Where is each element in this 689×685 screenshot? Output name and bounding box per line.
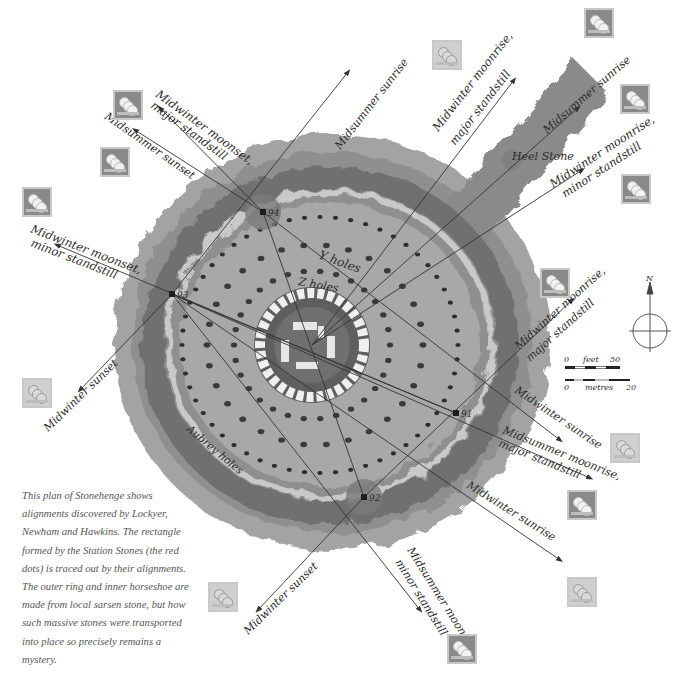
- horizon-icon: [571, 599, 593, 602]
- heel-stone-label: Heel Stone: [511, 150, 574, 163]
- horizon-icon: [212, 604, 234, 607]
- horizon-icon: [451, 656, 473, 659]
- station-stone-number: 91: [461, 409, 472, 419]
- scale-feet-unit: feet: [582, 355, 599, 364]
- sun-phase-icon: [208, 582, 238, 612]
- horizon-icon: [571, 512, 593, 515]
- moon-phase-icon: [567, 490, 597, 520]
- sun-phase-icon: [610, 433, 640, 463]
- horizon-icon: [544, 290, 566, 293]
- horizon-icon: [624, 106, 646, 109]
- moon-phase-icon: [584, 8, 614, 38]
- moon-phase-icon: [100, 147, 130, 177]
- horizon-icon: [117, 112, 139, 115]
- scale-feet-start: 0: [564, 355, 569, 364]
- station-stone-92: [361, 494, 367, 500]
- scale-metres-start: 0: [564, 383, 569, 392]
- scale-feet-end: 50: [610, 355, 620, 364]
- horizon-icon: [625, 196, 647, 199]
- horizon-icon: [588, 30, 610, 33]
- horizon-icon: [104, 169, 126, 172]
- horizon-icon: [614, 455, 636, 458]
- sun-phase-icon: [432, 40, 462, 70]
- moon-phase-icon: [540, 268, 570, 298]
- scale-metres-end: 20: [625, 383, 636, 392]
- moon-phase-icon: [447, 634, 477, 664]
- horizon-icon: [436, 62, 458, 65]
- sun-phase-icon: [22, 378, 52, 408]
- scale-metres-unit: metres: [585, 383, 613, 392]
- station-stone-number: 93: [177, 290, 189, 300]
- caption-text: This plan of Stonehenge shows alignments…: [22, 487, 192, 669]
- moon-phase-icon: [113, 90, 143, 120]
- horizon-icon: [26, 400, 48, 403]
- station-stone-number: 92: [369, 493, 381, 503]
- sun-phase-icon: [567, 577, 597, 607]
- station-stone-94: [260, 209, 266, 215]
- moon-phase-icon: [621, 174, 651, 204]
- north-label: N: [645, 274, 654, 283]
- moon-phase-icon: [620, 84, 650, 114]
- station-stone-93: [169, 291, 175, 297]
- station-stone-91: [453, 410, 459, 416]
- station-stone-number: 94: [268, 208, 280, 218]
- moon-phase-icon: [22, 187, 52, 217]
- horizon-icon: [26, 209, 48, 212]
